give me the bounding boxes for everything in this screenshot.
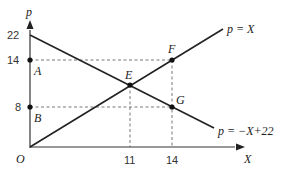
x-tick-14: 14 [166, 154, 178, 166]
point-E-label: E [124, 68, 133, 82]
point-F [169, 57, 174, 62]
demand-line-label: p = −X+22 [217, 124, 274, 138]
point-B [27, 104, 32, 109]
y-tick-8: 8 [15, 101, 21, 113]
point-G [169, 104, 174, 109]
point-F-label: F [167, 42, 176, 56]
y-tick-14: 14 [7, 54, 19, 66]
supply-line-label: p = X [226, 22, 255, 36]
x-axis-arrow-icon [236, 144, 245, 151]
demand-line [30, 35, 214, 128]
supply-line [30, 29, 223, 147]
point-A [27, 57, 32, 62]
x-axis-label: X [243, 152, 252, 166]
origin-label: O [16, 152, 25, 166]
point-A-label: A [33, 64, 42, 78]
y-tick-22: 22 [7, 29, 19, 41]
point-E [127, 82, 132, 87]
y-axis-label: p [25, 5, 32, 19]
y-axis-arrow-icon [27, 20, 34, 29]
diagram-canvas: p X O 22 14 8 11 14 A B E F G p = X p = … [0, 0, 286, 174]
x-tick-11: 11 [124, 154, 135, 166]
point-G-label: G [176, 93, 185, 107]
point-B-label: B [34, 111, 42, 125]
